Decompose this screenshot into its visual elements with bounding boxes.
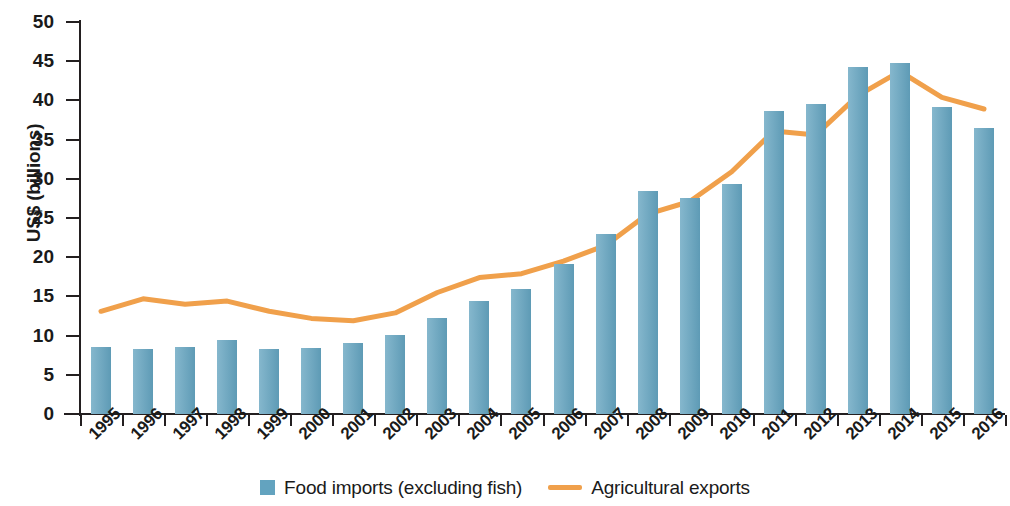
- y-axis-tick-mark: [66, 295, 79, 297]
- bar: [427, 318, 447, 414]
- legend-bar-swatch-icon: [260, 480, 275, 495]
- bar: [217, 340, 237, 414]
- x-axis-tick-mark: [80, 415, 82, 426]
- bar: [722, 184, 742, 414]
- y-axis-tick-mark: [66, 139, 79, 141]
- bar: [133, 349, 153, 414]
- bar: [974, 128, 994, 414]
- legend-item-food-imports: Food imports (excluding fish): [260, 478, 522, 497]
- bar: [890, 63, 910, 414]
- bar: [385, 335, 405, 414]
- y-axis-tick-mark: [66, 217, 79, 219]
- bar: [596, 234, 616, 414]
- legend-item-agricultural-exports: Agricultural exports: [548, 478, 750, 497]
- legend-label-agricultural-exports: Agricultural exports: [591, 478, 750, 497]
- chart-legend: Food imports (excluding fish) Agricultur…: [0, 478, 1010, 497]
- y-axis-tick-mark: [66, 374, 79, 376]
- bar: [680, 198, 700, 414]
- y-axis-tick-label: 25: [10, 208, 54, 227]
- y-axis-tick-label: 0: [10, 404, 54, 423]
- y-axis-tick-label: 50: [10, 12, 54, 31]
- y-axis-tick-label: 45: [10, 51, 54, 70]
- bar: [175, 347, 195, 414]
- plot-area: [80, 22, 1005, 414]
- bar: [259, 349, 279, 414]
- y-axis-ticks: 05101520253035404550: [0, 0, 80, 506]
- y-axis-tick-mark: [66, 256, 79, 258]
- bar: [932, 107, 952, 414]
- y-axis-tick-label: 40: [10, 90, 54, 109]
- y-axis-tick-label: 30: [10, 169, 54, 188]
- bar: [511, 289, 531, 414]
- bar: [764, 111, 784, 414]
- y-axis-tick-label: 10: [10, 326, 54, 345]
- y-axis-tick-label: 20: [10, 247, 54, 266]
- bar: [91, 347, 111, 414]
- bar: [469, 301, 489, 414]
- bar: [806, 104, 826, 414]
- y-axis-tick-mark: [66, 21, 79, 23]
- y-axis-tick-label: 5: [10, 365, 54, 384]
- y-axis-tick-mark: [66, 99, 79, 101]
- bar: [638, 191, 658, 414]
- legend-label-food-imports: Food imports (excluding fish): [284, 478, 522, 497]
- y-axis-tick-label: 35: [10, 130, 54, 149]
- chart-figure: US$ (billions) 05101520253035404550 1995…: [0, 0, 1010, 506]
- bar: [301, 348, 321, 414]
- legend-line-swatch-icon: [548, 485, 582, 490]
- y-axis-tick-mark: [66, 178, 79, 180]
- bar: [848, 67, 868, 414]
- y-axis-tick-mark: [66, 60, 79, 62]
- y-axis-tick-label: 15: [10, 286, 54, 305]
- y-axis-tick-mark: [66, 335, 79, 337]
- bar: [343, 343, 363, 414]
- bar: [554, 264, 574, 414]
